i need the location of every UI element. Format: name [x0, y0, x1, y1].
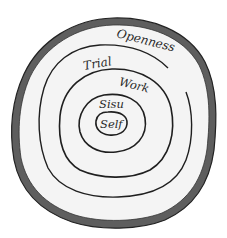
tree-ring-diagram: Openness Trial Work Sisu Self: [0, 0, 227, 238]
label-sisu: Sisu: [99, 97, 124, 111]
label-self: Self: [100, 117, 124, 131]
